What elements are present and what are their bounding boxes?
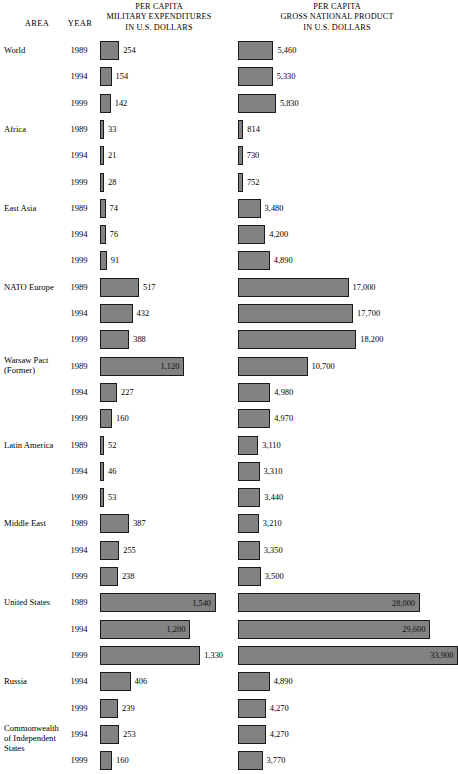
gnp-bar-group: 4,200 bbox=[238, 225, 288, 244]
gnp-bar bbox=[238, 199, 261, 218]
military-bar-group: 91 bbox=[100, 251, 119, 270]
gnp-bar bbox=[238, 41, 273, 60]
gnp-bar-group: 18,200 bbox=[238, 330, 383, 349]
year-label: 1989 bbox=[62, 124, 96, 134]
military-bar: 1,540 bbox=[100, 593, 216, 612]
military-value-label: 76 bbox=[110, 230, 118, 239]
year-label: 1994 bbox=[62, 729, 96, 739]
area-label: Russia bbox=[4, 676, 68, 686]
gnp-bar bbox=[238, 357, 308, 376]
military-bar-group: 1,330 bbox=[100, 646, 223, 665]
chart-row: 1999533,440 bbox=[0, 485, 448, 511]
chart-row: 19942274,980 bbox=[0, 380, 448, 406]
chart-row: 19991603,770 bbox=[0, 748, 448, 774]
gnp-bar-group: 29,600 bbox=[238, 620, 430, 639]
gnp-bar-group: 3,440 bbox=[238, 488, 283, 507]
gnp-value-label: 18,200 bbox=[360, 335, 383, 344]
military-bar bbox=[100, 225, 106, 244]
gnp-value-label: 29,600 bbox=[402, 625, 425, 634]
year-label: 1989 bbox=[62, 361, 96, 371]
chart-row: Africa198933814 bbox=[0, 117, 448, 143]
chart-row: 19991425,830 bbox=[0, 91, 448, 117]
year-label: 1994 bbox=[62, 545, 96, 555]
year-label: 1999 bbox=[62, 255, 96, 265]
gnp-bar: 29,600 bbox=[238, 620, 430, 639]
gnp-value-label: 10,700 bbox=[312, 362, 335, 371]
year-label: 1994 bbox=[62, 387, 96, 397]
gnp-value-label: 4,980 bbox=[274, 388, 293, 397]
military-value-label: 142 bbox=[115, 99, 128, 108]
year-label: 1989 bbox=[62, 45, 96, 55]
gnp-bar bbox=[238, 67, 273, 86]
military-value-label: 255 bbox=[123, 546, 136, 555]
military-bar bbox=[100, 751, 112, 770]
area-label: Africa bbox=[4, 124, 68, 134]
gnp-bar bbox=[238, 541, 260, 560]
military-value-label: 1,330 bbox=[204, 651, 223, 660]
area-label-line: (Former) bbox=[4, 365, 68, 375]
gnp-bar bbox=[238, 725, 266, 744]
gnp-bar bbox=[238, 751, 263, 770]
military-bar bbox=[100, 409, 112, 428]
gnp-bar-group: 4,270 bbox=[238, 725, 289, 744]
military-bar bbox=[100, 330, 129, 349]
chart-row: 1994463,310 bbox=[0, 459, 448, 485]
military-bar bbox=[100, 725, 119, 744]
gnp-bar-group: 3,310 bbox=[238, 462, 282, 481]
chart-row: 19991,33033,900 bbox=[0, 643, 448, 669]
gnp-value-label: 3,770 bbox=[267, 756, 286, 765]
gnp-bar-group: 4,980 bbox=[238, 383, 293, 402]
area-label-line: NATO Europe bbox=[4, 282, 68, 292]
gnp-bar-group: 4,970 bbox=[238, 409, 293, 428]
year-label: 1994 bbox=[62, 308, 96, 318]
military-value-label: 1,120 bbox=[161, 362, 180, 371]
year-label: 1994 bbox=[62, 71, 96, 81]
military-value-label: 33 bbox=[108, 125, 116, 134]
military-value-label: 46 bbox=[108, 467, 116, 476]
military-value-label: 238 bbox=[122, 572, 135, 581]
gnp-value-label: 5,830 bbox=[280, 99, 299, 108]
military-bar-group: 406 bbox=[100, 672, 147, 691]
military-bar bbox=[100, 541, 119, 560]
gnp-bar-group: 4,270 bbox=[238, 699, 289, 718]
column-header-area: AREA bbox=[8, 18, 66, 28]
military-bar bbox=[100, 462, 104, 481]
chart-row: Commonwealthof IndependentStates19942534… bbox=[0, 722, 448, 748]
gnp-bar bbox=[238, 488, 260, 507]
gnp-bar: 33,900 bbox=[238, 646, 458, 665]
military-bar-group: 387 bbox=[100, 514, 146, 533]
gnp-bar bbox=[238, 225, 265, 244]
chart-row: 19991604,970 bbox=[0, 406, 448, 432]
military-bar-group: 227 bbox=[100, 383, 134, 402]
area-label-line: Middle East bbox=[4, 518, 68, 528]
military-bar-group: 160 bbox=[100, 409, 129, 428]
area-label-line: Commonwealth bbox=[4, 723, 68, 733]
military-title-line-3: IN U.S. DOLLARS bbox=[92, 23, 226, 33]
gnp-bar-group: 5,830 bbox=[238, 94, 299, 113]
military-value-label: 160 bbox=[116, 414, 129, 423]
military-bar: 1,120 bbox=[100, 357, 184, 376]
military-value-label: 432 bbox=[137, 309, 150, 318]
chart-row: 199421730 bbox=[0, 143, 448, 169]
military-bar bbox=[100, 436, 104, 455]
military-bar bbox=[100, 514, 129, 533]
military-bar-group: 74 bbox=[100, 199, 118, 218]
chart-row: Middle East19893873,210 bbox=[0, 511, 448, 537]
area-label-line: of Independent bbox=[4, 733, 68, 743]
year-label: 1989 bbox=[62, 518, 96, 528]
gnp-bar-group: 752 bbox=[238, 173, 259, 192]
gnp-value-label: 3,440 bbox=[264, 493, 283, 502]
gnp-value-label: 3,500 bbox=[265, 572, 284, 581]
area-label-line: Africa bbox=[4, 124, 68, 134]
gnp-bar bbox=[238, 251, 270, 270]
gnp-value-label: 814 bbox=[247, 125, 260, 134]
military-bar bbox=[100, 488, 104, 507]
gnp-value-label: 4,270 bbox=[270, 704, 289, 713]
chart-row: East Asia1989743,480 bbox=[0, 196, 448, 222]
gnp-bar-group: 5,330 bbox=[238, 67, 295, 86]
area-label: World bbox=[4, 45, 68, 55]
military-value-label: 517 bbox=[143, 283, 156, 292]
gnp-bar-group: 814 bbox=[238, 120, 260, 139]
gnp-value-label: 4,890 bbox=[274, 677, 293, 686]
year-label: 1999 bbox=[62, 571, 96, 581]
